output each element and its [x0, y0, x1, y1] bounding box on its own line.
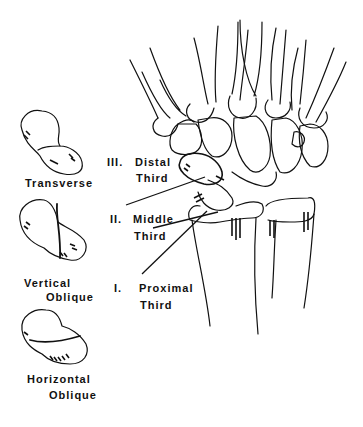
label-vertical-oblique-line1: Vertical	[24, 276, 71, 290]
label-region-middle-line1: Middle	[133, 212, 174, 226]
label-vertical-oblique-line2: Oblique	[46, 290, 94, 304]
label-region-distal-numeral: III.	[107, 155, 123, 169]
label-region-distal-line2: Third	[136, 171, 169, 185]
label-transverse: Transverse	[25, 176, 93, 190]
label-region-middle-numeral: II.	[110, 212, 122, 226]
wrist-diagram	[0, 0, 363, 427]
transverse-scaphoid-drawing	[21, 111, 82, 175]
label-region-proximal-numeral: I.	[114, 281, 122, 295]
vertical-oblique-scaphoid-drawing	[20, 200, 86, 260]
label-horizontal-oblique-line1: Horizontal	[27, 372, 91, 386]
label-region-distal-line1: Distal	[135, 155, 171, 169]
label-region-proximal-line1: Proximal	[139, 281, 193, 295]
label-horizontal-oblique-line2: Oblique	[49, 388, 97, 402]
label-region-proximal-line2: Third	[140, 298, 173, 312]
horizontal-oblique-scaphoid-drawing	[22, 310, 87, 364]
label-region-middle-line2: Third	[134, 229, 167, 243]
